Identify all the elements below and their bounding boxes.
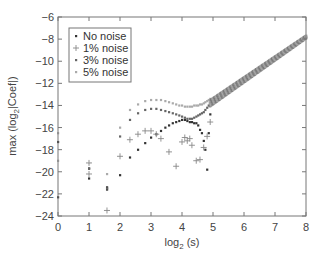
data-point — [172, 122, 174, 124]
data-point — [150, 108, 152, 110]
data-point — [189, 106, 191, 108]
data-point — [164, 127, 166, 129]
data-point — [195, 122, 197, 124]
data-point — [181, 116, 183, 118]
data-point — [203, 111, 205, 113]
data-point — [155, 108, 157, 110]
data-point — [181, 104, 183, 106]
data-point — [204, 109, 206, 111]
legend-label: 3% noise — [83, 54, 128, 66]
data-point — [168, 124, 170, 126]
data-point — [189, 118, 191, 120]
data-point — [144, 109, 146, 111]
data-point — [160, 99, 162, 101]
data-point — [186, 120, 188, 122]
data-point — [184, 106, 186, 108]
data-point — [172, 112, 174, 114]
data-point — [197, 124, 199, 126]
data-point — [175, 121, 177, 123]
data-point — [193, 122, 195, 124]
data-point — [137, 103, 139, 105]
y-tick-label: −18 — [35, 144, 54, 156]
data-point — [119, 174, 121, 176]
series-5-noise — [57, 98, 211, 175]
legend-item: No noise — [75, 30, 126, 42]
data-point — [178, 114, 180, 116]
data-point — [75, 59, 77, 61]
x-tick-label: 4 — [179, 221, 185, 233]
data-point — [206, 107, 208, 109]
data-point — [75, 71, 77, 73]
data-point — [199, 129, 201, 131]
data-point — [191, 121, 193, 123]
data-point — [164, 110, 166, 112]
data-point — [208, 132, 210, 134]
legend: No noise1% noise3% noise5% noise — [69, 28, 131, 82]
data-point — [193, 117, 195, 119]
data-point — [206, 169, 208, 171]
x-tick-label: 3 — [148, 221, 154, 233]
data-point — [119, 135, 121, 137]
data-point — [88, 162, 90, 164]
x-tick-label: 6 — [241, 221, 247, 233]
y-tick-label: −22 — [35, 188, 54, 200]
y-tick-label: −16 — [35, 122, 54, 134]
data-point — [150, 99, 152, 101]
data-point — [155, 99, 157, 101]
data-point — [172, 102, 174, 104]
data-point — [175, 113, 177, 115]
data-point — [144, 100, 146, 102]
data-point — [137, 149, 139, 151]
series-no-noise — [57, 113, 211, 198]
x-tick-label: 0 — [55, 221, 61, 233]
x-tick-label: 8 — [303, 221, 309, 233]
data-point — [203, 140, 205, 142]
data-point — [164, 100, 166, 102]
data-point — [160, 109, 162, 111]
data-point — [75, 35, 77, 37]
data-point — [119, 127, 121, 129]
y-tick-label: −6 — [41, 11, 54, 23]
data-point — [184, 119, 186, 121]
series-1-noise — [86, 119, 213, 213]
data-point — [88, 177, 90, 179]
data-point — [193, 104, 195, 106]
data-point — [178, 120, 180, 122]
data-point — [204, 149, 206, 151]
y-tick-label: −20 — [35, 166, 54, 178]
legend-item: 3% noise — [75, 54, 128, 66]
x-tick-label: 7 — [272, 221, 278, 233]
data-point — [184, 117, 186, 119]
data-point — [106, 187, 108, 189]
data-point — [137, 112, 139, 114]
data-point — [186, 106, 188, 108]
legend-label: No noise — [83, 30, 126, 42]
data-point — [189, 121, 191, 123]
data-point — [129, 156, 131, 158]
data-point — [150, 137, 152, 139]
data-point — [168, 111, 170, 113]
y-tick-label: −8 — [41, 33, 54, 45]
data-point — [201, 132, 203, 134]
data-point — [129, 109, 131, 111]
x-tick-label: 2 — [117, 221, 123, 233]
data-point — [191, 118, 193, 120]
data-point — [106, 173, 108, 175]
legend-label: 1% noise — [83, 42, 128, 54]
series-3-noise — [88, 102, 211, 189]
data-point — [181, 119, 183, 121]
x-tick-label: 5 — [210, 221, 216, 233]
data-point — [88, 167, 90, 169]
data-point — [178, 104, 180, 106]
data-point — [160, 130, 162, 132]
y-tick-label: −24 — [35, 210, 54, 222]
x-axis-label: log2 (s) — [164, 236, 199, 251]
y-tick-label: −12 — [35, 77, 54, 89]
y-tick-label: −14 — [35, 99, 54, 111]
x-tick-label: 1 — [86, 221, 92, 233]
y-tick-label: −10 — [35, 55, 54, 67]
data-point — [175, 103, 177, 105]
data-point — [129, 119, 131, 121]
series-shared-all-series-s-large- — [209, 35, 308, 108]
legend-label: 5% noise — [83, 66, 128, 78]
